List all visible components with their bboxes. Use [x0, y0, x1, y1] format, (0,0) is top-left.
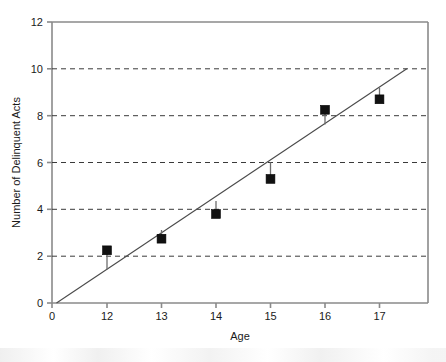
scatter-plot-figure: 12 10 8 6 4 2 0 Number of Delinquent Act… — [0, 0, 446, 362]
data-point-age-16[interactable] — [321, 105, 330, 114]
data-point-age-12[interactable] — [103, 246, 112, 255]
x-tick-label-13: 13 — [155, 310, 167, 322]
y-tick-label-6: 6 — [37, 157, 43, 169]
x-axis-title: Age — [230, 330, 250, 342]
data-point-age-17[interactable] — [375, 95, 384, 104]
y-tick-label-0: 0 — [37, 297, 43, 309]
y-tick-label-8: 8 — [37, 110, 43, 122]
chart-svg: 12 10 8 6 4 2 0 Number of Delinquent Act… — [0, 0, 446, 362]
y-tick-label-2: 2 — [37, 250, 43, 262]
x-tick-label-17: 17 — [373, 310, 385, 322]
y-tick-label-4: 4 — [37, 203, 43, 215]
y-tick-label-10: 10 — [31, 63, 43, 75]
y-axis-title: Number of Delinquent Acts — [10, 97, 22, 228]
x-tick-label-14: 14 — [210, 310, 222, 322]
data-point-age-15[interactable] — [266, 175, 275, 184]
x-tick-label-12: 12 — [101, 310, 113, 322]
x-tick-label-16: 16 — [319, 310, 331, 322]
y-tick-label-12: 12 — [31, 16, 43, 28]
page-scan-artifact — [0, 348, 446, 362]
x-tick-label-0: 0 — [49, 310, 55, 322]
data-point-age-14[interactable] — [212, 210, 221, 219]
data-point-age-13[interactable] — [157, 234, 166, 243]
x-tick-label-15: 15 — [264, 310, 276, 322]
